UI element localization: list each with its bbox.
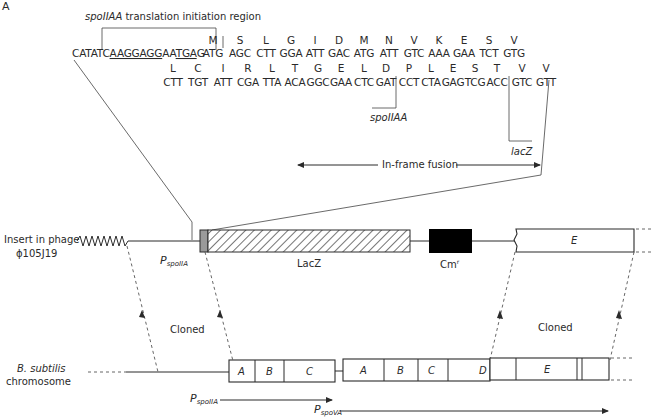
phage-label-line2: ϕ105J19	[16, 248, 57, 259]
amino-acid: S	[472, 62, 479, 74]
codon: ATT	[306, 47, 325, 59]
amino-acid: V	[518, 62, 526, 74]
codon: TCT	[479, 47, 500, 59]
spoIIAA-stub	[200, 230, 208, 252]
codon: ATG	[203, 47, 223, 59]
amino-acid: M	[359, 34, 368, 46]
codon: TCG	[464, 76, 486, 88]
codon: GTT	[536, 76, 557, 88]
chromosome-label-line1: B. subtilis	[17, 363, 66, 374]
operon1-box	[229, 360, 335, 382]
amino-acid: S	[486, 34, 493, 46]
codon: GGC	[306, 76, 329, 88]
codon: ACA	[285, 76, 307, 88]
cloned-arrowhead-2	[217, 310, 223, 318]
codon: CTT	[256, 47, 276, 59]
cloned-label-right: Cloned	[538, 322, 573, 333]
operon2-gene-b: B	[397, 365, 404, 376]
amino-acid: P	[406, 62, 412, 74]
amino-acid: T	[291, 62, 299, 74]
operon2-gene-d: D	[479, 365, 487, 376]
codon: GGA	[280, 47, 304, 59]
amino-acid: L	[170, 62, 176, 74]
spoIIAA-junction-label: spoIIAA	[370, 112, 407, 123]
codon: GTC	[404, 47, 424, 59]
operon1-gene-b: B	[266, 366, 273, 377]
operon1-gene-a: A	[237, 366, 245, 377]
codon: CTT	[163, 76, 183, 88]
cloned-line-1	[127, 246, 158, 372]
amino-acid: L	[269, 62, 275, 74]
amino-acid: V	[510, 34, 518, 46]
cloned-line-4	[610, 252, 634, 360]
codon: CGA	[237, 76, 260, 88]
codon: CCT	[399, 76, 420, 88]
cm-label: Cmr	[440, 258, 460, 270]
in-frame-fusion-label: In-frame fusion	[382, 159, 458, 170]
codon: ACC	[486, 76, 507, 88]
promoter-spoVA-label: PspoVA	[314, 403, 342, 417]
codon: TGT	[187, 76, 209, 88]
zoom-line-right	[212, 80, 549, 240]
operon1-gene-c: C	[306, 366, 313, 377]
gene-e-label-phage: E	[571, 235, 578, 246]
amino-acid: L	[263, 34, 269, 46]
amino-acid: C	[194, 62, 201, 74]
amino-acid: V	[542, 62, 550, 74]
codon: GTG	[503, 47, 525, 59]
panel-label: A	[2, 0, 10, 13]
lacz-label: LacZ	[297, 258, 321, 269]
operon2-gene-a: A	[359, 365, 367, 376]
leader-sequence: CATATCAAGGAGGAATGAG	[72, 47, 205, 59]
phage-promoter-label: PspoIIA	[160, 254, 188, 268]
amino-acid: D	[335, 34, 343, 46]
amino-acid: M	[208, 34, 217, 46]
cloned-arrowhead-3	[497, 310, 503, 319]
amino-acid: R	[244, 62, 251, 74]
codon-row-2: CTTTGTATTCGATTAACAGGCGAACTCGATCCTCTAGAGT…	[163, 76, 556, 88]
phage-dna-zigzag	[77, 236, 128, 246]
amino-acid: K	[436, 34, 444, 46]
codon: TTA	[262, 76, 282, 88]
codon: CTA	[421, 76, 442, 88]
codon: GTC	[512, 76, 532, 88]
codon: GAA	[330, 76, 353, 88]
cloned-line-2	[205, 252, 233, 361]
amino-acid: E	[338, 62, 345, 74]
initiation-region-label: spoIIAA translation initiation region	[85, 11, 261, 22]
amino-acid: S	[237, 34, 244, 46]
amino-acid: E	[450, 62, 457, 74]
promoter-spoIIA-label: PspoIIA	[190, 392, 218, 406]
amino-acid: D	[382, 62, 390, 74]
codon: GAT	[376, 76, 397, 88]
codon: ATT	[380, 47, 399, 59]
codon: AAA	[428, 47, 451, 59]
operon2-gene-e: E	[544, 364, 551, 375]
cm-resistance-box	[429, 229, 472, 253]
amino-acid: V	[410, 34, 418, 46]
codon: GAC	[328, 47, 350, 59]
amino-acid-row-1: MSLGIDMNVKESV	[208, 34, 518, 46]
codon: GAA	[453, 47, 476, 59]
codon: AGC	[229, 47, 251, 59]
codon: GAG	[442, 76, 465, 88]
fusion-diagram: A spoIIAA translation initiation region …	[0, 0, 652, 419]
codon: ATT	[214, 76, 233, 88]
cloned-line-3	[490, 252, 515, 360]
amino-acid: I	[221, 62, 224, 74]
lacZ-junction-label: lacZ	[511, 146, 533, 157]
phage-label-line1: Insert in phage	[4, 234, 79, 245]
operon2-gene-c: C	[428, 365, 435, 376]
codon-row-1: ATGAGCCTTGGAATTGACATGATTGTCAAAGAATCTGTG	[203, 47, 525, 59]
amino-acid: N	[385, 34, 393, 46]
cloned-arrowhead-1	[139, 310, 145, 318]
amino-acid: E	[461, 34, 468, 46]
amino-acid: T	[493, 62, 501, 74]
amino-acid-row-2: LCIRLTGELDPLESTVV	[170, 62, 550, 74]
codon: ATG	[354, 47, 374, 59]
lacz-box	[208, 230, 410, 252]
cloned-label-left: Cloned	[170, 324, 205, 335]
amino-acid: G	[287, 34, 295, 46]
amino-acid: L	[428, 62, 434, 74]
codon: CTC	[354, 76, 374, 88]
